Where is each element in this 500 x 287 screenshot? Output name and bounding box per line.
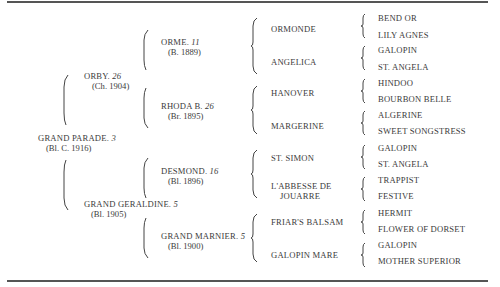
horse-galopin: GALOPIN xyxy=(378,240,417,250)
horse-labbesse-de-jouarre-line2: JOUARRE xyxy=(280,191,320,201)
horse-name: DESMOND. xyxy=(161,166,207,176)
bracket-friars-balsam xyxy=(360,210,366,234)
family-number: 11 xyxy=(191,37,199,47)
horse-st-simon: ST. SIMON xyxy=(271,153,314,163)
bracket-labbesse xyxy=(360,177,366,201)
horse-detail: (Bl. 1896) xyxy=(168,176,203,186)
family-number: 26 xyxy=(112,71,121,81)
horse-grand-geraldine: GRAND GERALDINE. 5 xyxy=(84,199,178,209)
family-number: 16 xyxy=(210,166,219,176)
horse-galopin: GALOPIN xyxy=(378,45,417,55)
horse-grand-parade: GRAND PARADE. 3 xyxy=(38,133,116,143)
top-rule xyxy=(7,1,488,3)
horse-rhoda-b: RHODA B. 26 xyxy=(161,101,214,111)
horse-st-angela: ST. ANGELA xyxy=(378,62,429,72)
bracket-orme xyxy=(250,18,258,74)
bracket-st-simon xyxy=(360,145,366,169)
horse-mother-superior: MOTHER SUPERIOR xyxy=(378,256,461,266)
family-number: 5 xyxy=(174,199,179,209)
bracket-orby-sire xyxy=(142,30,150,70)
bracket-margerine xyxy=(360,111,366,135)
bracket-upper-gen1 xyxy=(62,75,70,125)
horse-margerine: MARGERINE xyxy=(271,121,324,131)
horse-festive: FESTIVE xyxy=(378,191,414,201)
family-number: 5 xyxy=(241,231,246,241)
bracket-lower-gen1 xyxy=(62,160,70,210)
horse-name: RHODA B. xyxy=(161,101,203,111)
horse-detail: (Ch. 1904) xyxy=(92,81,129,91)
horse-bourbon-belle: BOURBON BELLE xyxy=(378,94,452,104)
horse-hindoo: HINDOO xyxy=(378,78,413,88)
horse-bend-or: BEND OR xyxy=(378,13,417,23)
horse-ormonde: ORMONDE xyxy=(271,24,316,34)
horse-galopin-mare: GALOPIN MARE xyxy=(271,250,338,260)
bracket-grand-marnier xyxy=(250,214,258,262)
horse-detail: (Bl. 1900) xyxy=(168,241,203,251)
horse-trappist: TRAPPIST xyxy=(378,175,419,185)
horse-st-angela: ST. ANGELA xyxy=(378,159,429,169)
bracket-hanover xyxy=(360,79,366,103)
bracket-galopin-mare xyxy=(360,243,366,267)
horse-name: GRAND MARNIER. xyxy=(161,231,238,241)
horse-hermit: HERMIT xyxy=(378,208,412,218)
bracket-geraldine-sire xyxy=(142,158,150,198)
horse-name: ORME. xyxy=(161,37,189,47)
bracket-geraldine-dam xyxy=(142,218,150,258)
horse-algerine: ALGERINE xyxy=(378,110,423,120)
horse-grand-marnier: GRAND MARNIER. 5 xyxy=(161,231,245,241)
bracket-orby-dam xyxy=(142,88,150,128)
horse-name: ORBY. xyxy=(84,71,110,81)
horse-orby: ORBY. 26 xyxy=(84,71,121,81)
bracket-angelica xyxy=(360,46,366,70)
horse-detail: (Bl. 1905) xyxy=(91,209,126,219)
horse-flower-of-dorset: FLOWER OF DORSET xyxy=(378,224,465,234)
horse-name: GRAND PARADE. xyxy=(38,133,109,143)
horse-friars-balsam: FRIAR'S BALSAM xyxy=(271,217,343,227)
horse-orme: ORME. 11 xyxy=(161,37,200,47)
bracket-rhoda-b xyxy=(250,86,258,134)
horse-galopin: GALOPIN xyxy=(378,143,417,153)
family-number: 26 xyxy=(205,101,214,111)
bottom-rule xyxy=(7,280,488,282)
horse-name: GRAND GERALDINE. xyxy=(84,199,171,209)
horse-desmond: DESMOND. 16 xyxy=(161,166,219,176)
horse-sweet-songstress: SWEET SONGSTRESS xyxy=(378,126,466,136)
horse-labbesse-de-jouarre-line1: L'ABBESSE DE xyxy=(271,181,332,191)
horse-angelica: ANGELICA xyxy=(271,57,317,67)
horse-detail: (Br. 1895) xyxy=(168,111,203,121)
horse-hanover: HANOVER xyxy=(271,88,314,98)
horse-detail: (B. 1889) xyxy=(168,47,201,57)
horse-detail: (Bl. C. 1916) xyxy=(46,143,91,153)
horse-lily-agnes: LILY AGNES xyxy=(378,30,429,40)
family-number: 3 xyxy=(111,133,116,143)
bracket-ormonde xyxy=(360,14,366,38)
bracket-desmond xyxy=(250,150,258,198)
